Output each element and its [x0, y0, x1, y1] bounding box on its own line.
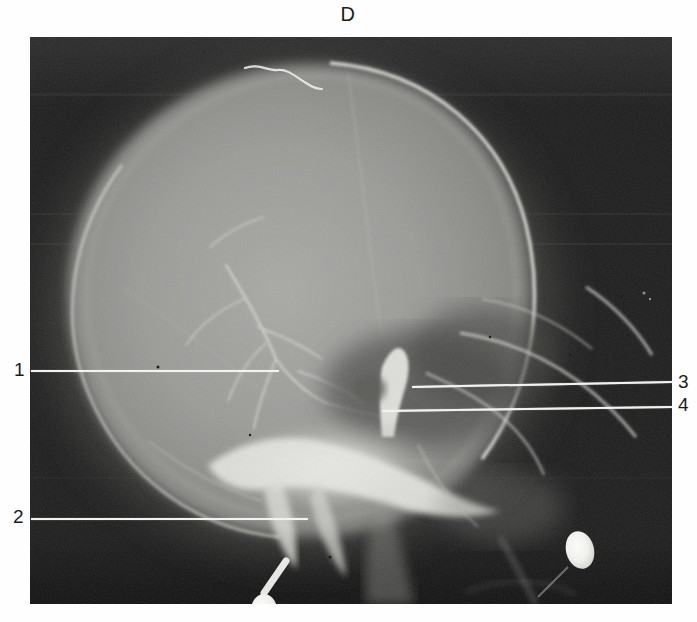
figure-root: D [0, 0, 697, 622]
radiograph-canvas [30, 37, 672, 604]
annotation-label-3: 3 [678, 372, 689, 392]
annotation-label-2: 2 [13, 507, 24, 527]
radiograph-image [30, 37, 672, 604]
annotation-label-4: 4 [678, 395, 689, 415]
panel-letter: D [330, 2, 366, 26]
film-grain-overlay [30, 37, 672, 604]
annotation-label-1: 1 [14, 360, 25, 380]
